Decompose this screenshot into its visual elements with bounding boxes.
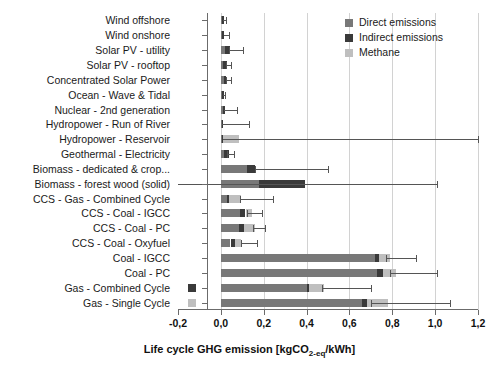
x-axis-title-pre: Life cycle GHG emission [kgCO [144,343,309,355]
x-axis-tick-label: 0,4 [299,317,314,329]
legend-label: Indirect emissions [359,32,443,43]
error-bar-line [241,243,257,244]
error-bar-cap [371,285,372,292]
error-bar-line [322,288,371,289]
y-axis-category-label: Gas - Single Cycle [83,297,170,308]
y-axis-tick [202,80,207,81]
y-axis-tick [202,184,207,185]
error-bar-cap [226,77,227,84]
bar-row [178,195,478,203]
bar-segment-direct [221,284,307,292]
x-axis-title: Life cycle GHG emission [kgCO2-eq/kWh] [0,343,499,358]
y-axis-category-label: Ocean - Wave & Tidal [68,89,170,100]
bar-row [178,106,478,114]
x-axis-tick-label: 1,2 [471,317,486,329]
error-bar-cap [234,151,235,158]
y-axis-category-label: Wind offshore [105,15,170,26]
error-bar-line [390,273,437,274]
x-axis-tick-label: 0,6 [342,317,357,329]
legend-item: Methane [345,46,443,59]
y-axis-tick [202,303,207,304]
error-bar-line [224,110,237,111]
y-axis-category-label: Nuclear - 2nd generation [54,104,170,115]
x-axis-tick [349,310,350,315]
bar-row [178,150,478,158]
error-bar-cap [416,255,417,262]
gridline [221,13,222,310]
bar-row [178,224,478,232]
x-axis-tick-label: 1,0 [428,317,443,329]
error-bar-line [371,303,450,304]
bar-row [178,254,478,262]
error-bar-line [253,228,265,229]
bar-segment-direct [221,254,375,262]
y-axis-category-label: CCS - Coal - IGCC [81,208,170,219]
chart-legend: Direct emissionsIndirect emissionsMethan… [345,16,443,61]
y-axis-tick [202,154,207,155]
bar-row [178,61,478,69]
y-axis-tick [202,228,207,229]
error-bar-cap [229,47,230,54]
error-bar-line [223,139,478,140]
x-axis-tick [478,310,479,315]
x-axis-tick-label: 0,0 [214,317,229,329]
error-bar-line [247,213,262,214]
y-axis-tick [202,110,207,111]
error-bar-cap [231,77,232,84]
error-bar-cap [226,17,227,24]
error-bar-cap [478,136,479,143]
bar-segment-direct [221,239,231,247]
y-axis-category-label: Geothermal - Electricity [61,149,170,160]
y-axis-category-label: Biomass - forest wood (solid) [35,179,170,190]
bar-segment-direct [221,224,239,232]
y-axis-category-label: Solar PV - rooftop [87,60,170,71]
bar-row [178,209,478,217]
y-axis-category-labels: Wind offshoreWind onshoreSolar PV - util… [0,13,176,310]
error-bar-cap [262,210,263,217]
legend-item: Indirect emissions [345,31,443,44]
error-bar-cap [450,300,451,307]
legend-swatch-icon [345,34,353,42]
legend-label: Methane [359,47,400,58]
error-bar-cap [265,225,266,232]
error-bar-line [240,199,273,200]
y-axis-tick [202,199,207,200]
error-bar-line [386,258,416,259]
legend-marker-square [188,299,196,307]
gridline [307,13,308,310]
y-axis-category-label: Hydropower - Run of River [46,119,170,130]
y-axis-category-label: Wind onshore [105,30,170,41]
error-bar-cap [241,240,242,247]
error-bar-cap [371,300,372,307]
error-bar-cap [237,107,238,114]
error-bar-cap [322,285,323,292]
legend-marker-square [188,284,196,292]
error-bar-cap [257,240,258,247]
x-axis-tick [392,310,393,315]
y-axis-tick [202,65,207,66]
bar-segment-indirect [247,165,256,173]
error-bar-cap [227,151,228,158]
y-axis-tick [202,139,207,140]
bar-segment-direct [221,209,240,217]
legend-swatch-icon [345,49,353,57]
y-axis-category-label: Biomass - dedicated & crop... [33,164,170,175]
y-axis-category-label: Hydropower - Reservoir [59,134,170,145]
x-axis-title-post: /kWh] [325,343,355,355]
error-bar-line [255,169,328,170]
y-axis-tick [202,258,207,259]
y-axis-category-label: CCS - Coal - Oxyfuel [72,238,170,249]
y-axis-tick [202,288,207,289]
y-axis-tick [202,20,207,21]
error-bar-line [222,124,249,125]
x-axis-tick-label: 0,8 [385,317,400,329]
error-bar-cap [247,210,248,217]
y-axis-tick [202,124,207,125]
error-bar-cap [253,225,254,232]
x-axis-tick [435,310,436,315]
y-axis-category-label: Coal - IGCC [113,253,170,264]
x-axis-tick-label: 0,2 [256,317,271,329]
y-axis-category-label: Solar PV - utility [95,45,170,56]
error-bar-cap [243,47,244,54]
error-bar-cap [437,270,438,277]
